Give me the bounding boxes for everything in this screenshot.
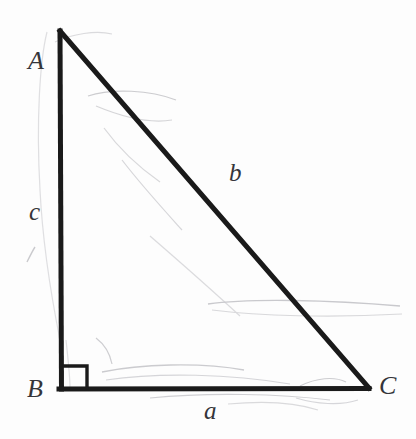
side-label-b: b [229, 160, 242, 185]
side-b-stroke [60, 31, 369, 388]
side-label-c: c [29, 199, 40, 224]
diagram-canvas: A B C a b c [0, 0, 416, 439]
right-angle-marker [64, 366, 87, 388]
paper-artifacts [27, 32, 402, 410]
side-label-a: a [204, 398, 217, 423]
vertex-label-c: C [379, 373, 396, 399]
triangle-figure [0, 0, 416, 439]
vertex-label-a: A [28, 48, 44, 74]
side-a-stroke [59, 389, 369, 390]
side-c-stroke [60, 31, 62, 389]
vertex-label-b: B [27, 376, 43, 402]
triangle-outline [59, 31, 369, 389]
